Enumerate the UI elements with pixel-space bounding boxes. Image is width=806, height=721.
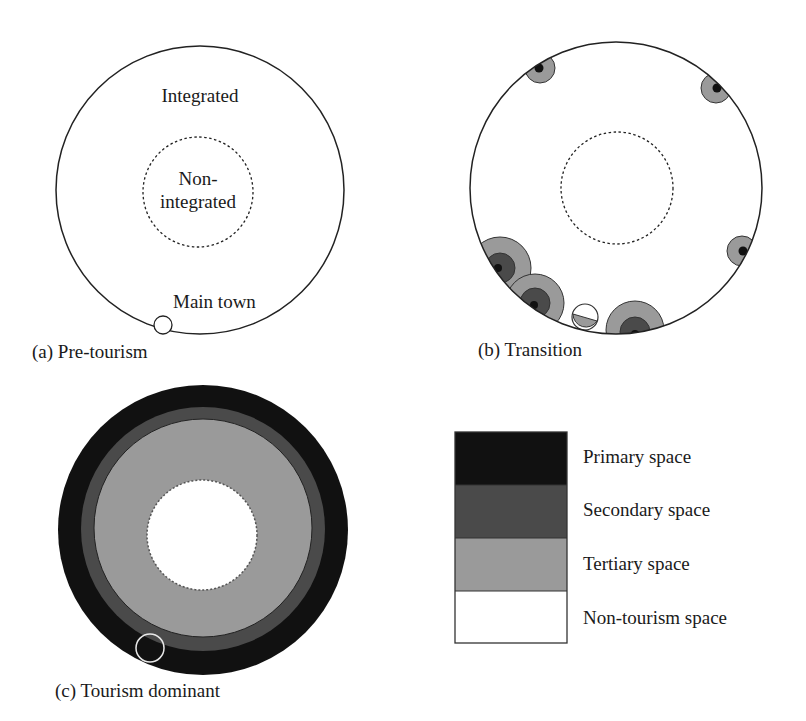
- tourism-space-diagram: Integrated Non- integrated Main town (a)…: [0, 0, 806, 721]
- legend: Primary space Secondary space Tertiary s…: [455, 432, 727, 643]
- legend-swatch-tertiary: [455, 538, 567, 591]
- panel-c-tourism-dominant: (c) Tourism dominant: [55, 385, 348, 702]
- integrated-label: Integrated: [161, 85, 239, 106]
- main-town-marker: [572, 304, 598, 330]
- caption-b: (b) Transition: [478, 339, 582, 361]
- legend-label-secondary: Secondary space: [583, 499, 710, 520]
- main-town-marker: [154, 316, 172, 334]
- panel-a-pre-tourism: Integrated Non- integrated Main town (a)…: [32, 46, 344, 363]
- legend-label-non-tourism: Non-tourism space: [583, 607, 727, 628]
- caption-a: (a) Pre-tourism: [32, 341, 148, 363]
- tourism-cluster-bottom: [606, 301, 664, 359]
- legend-label-tertiary: Tertiary space: [583, 553, 690, 574]
- non-integrated-label-line1: Non-: [178, 168, 217, 189]
- legend-swatch-secondary: [455, 485, 567, 538]
- legend-swatch-non-tourism: [455, 591, 567, 643]
- non-tourism-core: [147, 480, 257, 590]
- tourism-node-top-right: [701, 73, 731, 103]
- non-integrated-label-line2: integrated: [160, 191, 236, 212]
- panel-b-transition: (b) Transition: [469, 42, 762, 361]
- caption-c: (c) Tourism dominant: [55, 680, 221, 702]
- legend-swatch-primary: [455, 432, 567, 485]
- main-town-label: Main town: [173, 291, 256, 312]
- legend-label-primary: Primary space: [583, 446, 691, 467]
